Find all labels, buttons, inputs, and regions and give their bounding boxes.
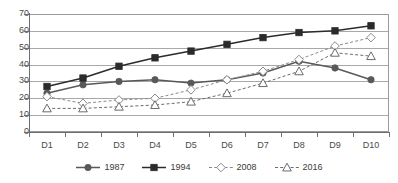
data-point (187, 86, 196, 95)
legend-marker-icon (75, 162, 101, 173)
x-tick-label: D5 (173, 140, 209, 150)
data-point (116, 63, 122, 69)
series-line (47, 61, 371, 93)
series-2008 (43, 33, 376, 107)
x-tick-mark (101, 132, 102, 137)
x-tick-label: D6 (209, 140, 245, 150)
x-tick-label: D1 (29, 140, 65, 150)
series-2016 (43, 48, 376, 111)
series-line (47, 53, 371, 109)
legend-item-2008[interactable]: 2008 (208, 162, 257, 173)
legend-label: 2016 (303, 162, 323, 173)
data-point (331, 48, 340, 56)
x-axis-labels: D1D2D3D4D5D6D7D8D9D10 (0, 140, 398, 154)
line-chart: 010203040506070 D1D2D3D4D5D6D7D8D9D10 19… (0, 0, 398, 183)
legend-item-1994[interactable]: 1994 (141, 162, 190, 173)
x-tick-mark (389, 132, 390, 137)
x-tick-mark (281, 132, 282, 137)
x-tick-mark (209, 132, 210, 137)
data-point (224, 41, 230, 47)
x-tick-label: D7 (245, 140, 281, 150)
data-point (80, 75, 86, 81)
x-tick-mark (137, 132, 138, 137)
x-tick-mark (317, 132, 318, 137)
x-tick-mark (245, 132, 246, 137)
data-point (368, 77, 374, 83)
data-point (116, 78, 122, 84)
x-tick-mark (353, 132, 354, 137)
legend-marker-icon (274, 162, 300, 173)
legend-marker-icon (141, 162, 167, 173)
data-point (80, 82, 86, 88)
x-tick-label: D10 (353, 140, 389, 150)
series-line (47, 26, 371, 87)
data-point (223, 75, 232, 84)
data-point (367, 33, 376, 42)
data-point (188, 48, 194, 54)
x-tick-label: D9 (317, 140, 353, 150)
data-point (44, 83, 50, 89)
data-point (332, 28, 338, 34)
data-point (332, 65, 338, 71)
data-series-layer (0, 0, 398, 183)
legend-label: 1987 (104, 162, 124, 173)
data-point (152, 55, 158, 61)
x-tick-mark (173, 132, 174, 137)
x-tick-label: D2 (65, 140, 101, 150)
series-1987 (44, 58, 374, 96)
legend-marker-icon (208, 162, 234, 173)
chart-legend: 1987199420082016 (0, 158, 398, 176)
x-tick-mark (65, 132, 66, 137)
data-point (260, 34, 266, 40)
x-tick-label: D8 (281, 140, 317, 150)
series-1994 (44, 23, 374, 90)
legend-label: 1994 (170, 162, 190, 173)
legend-item-1987[interactable]: 1987 (75, 162, 124, 173)
data-point (152, 77, 158, 83)
data-point (368, 23, 374, 29)
data-point (295, 67, 304, 75)
x-tick-label: D3 (101, 140, 137, 150)
legend-item-2016[interactable]: 2016 (274, 162, 323, 173)
data-point (296, 29, 302, 35)
x-tick-mark (29, 132, 30, 137)
legend-label: 2008 (237, 162, 257, 173)
data-point (43, 104, 52, 112)
data-point (259, 79, 268, 87)
x-tick-label: D4 (137, 140, 173, 150)
